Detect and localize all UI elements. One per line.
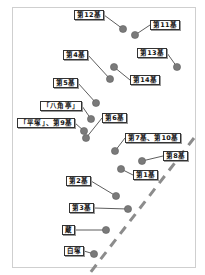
leader-line [88,55,110,79]
mound-marker-dot[interactable] [131,31,138,38]
label-mound-8[interactable]: 第8基 [163,151,188,161]
label-mound-12[interactable]: 第12基 [74,10,104,20]
label-mound-13[interactable]: 第13基 [137,48,167,58]
mound-marker-dot[interactable] [119,25,126,32]
mound-marker-dot[interactable] [112,192,119,199]
mound-marker-dot[interactable] [111,147,118,154]
mound-marker-dot[interactable] [102,226,109,233]
mound-marker-dot[interactable] [82,134,89,141]
leader-line [94,208,128,209]
mound-marker-dot[interactable] [173,63,180,70]
mound-marker-dot[interactable] [90,250,97,257]
mound-marker-dot[interactable] [87,115,94,122]
label-hakkakutei[interactable]: 「八角亭」 [40,101,82,111]
mound-marker-dot[interactable] [124,205,131,212]
label-mound-5[interactable]: 第5基 [53,78,78,88]
label-kura[interactable]: 蔵 [62,225,75,235]
mound-marker-dot[interactable] [80,127,87,134]
label-mound-4[interactable]: 第4基 [63,50,88,60]
label-mound-3[interactable]: 第3基 [69,203,94,213]
mound-marker-dot[interactable] [110,63,117,70]
mound-marker-dot[interactable] [92,99,99,106]
label-mound-14[interactable]: 第14基 [130,75,160,85]
mound-marker-dot[interactable] [138,157,145,164]
label-shirotsuka[interactable]: 白塚 [64,246,84,256]
label-mound-2[interactable]: 第2基 [66,176,91,186]
mound-marker-dot[interactable] [117,165,124,172]
mound-marker-dot[interactable] [106,75,113,82]
label-hiratsuka-mound-9[interactable]: 「平塚」、第9基 [17,118,75,128]
label-mound-1[interactable]: 第1基 [133,170,158,180]
leader-line [91,181,116,196]
label-mound-11[interactable]: 第11基 [150,20,180,30]
label-mound-6[interactable]: 第6基 [102,113,127,123]
leader-line [78,83,96,103]
label-mound-7-10[interactable]: 第7基、第10基 [125,133,181,143]
